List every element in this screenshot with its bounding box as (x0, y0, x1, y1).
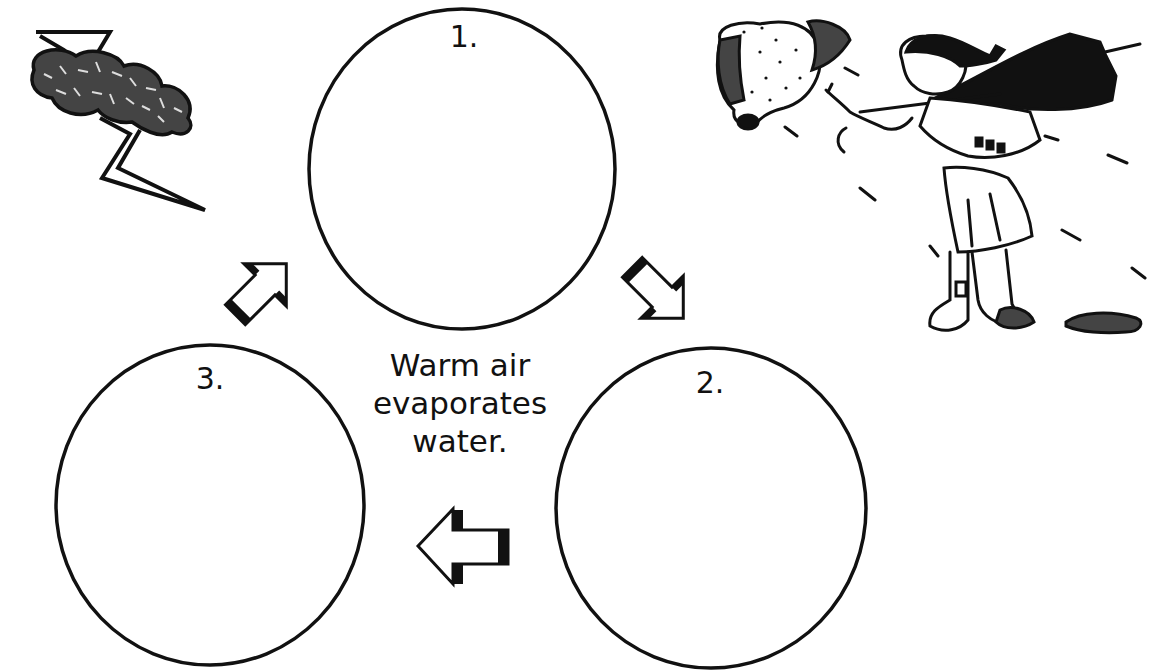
step-1-label: 1. (444, 22, 484, 52)
storm-cloud-lightning-icon (32, 32, 205, 210)
arrow-up-right-icon (214, 243, 307, 336)
caption-line-3: water. (360, 422, 560, 460)
center-caption: Warm air evaporates water. (360, 346, 560, 460)
caption-line-1: Warm air (360, 346, 560, 384)
step-1-circle (309, 9, 615, 329)
girl-umbrella-wind-icon (717, 21, 1145, 333)
step-3-label: 3. (190, 364, 230, 394)
caption-line-2: evaporates (360, 384, 560, 422)
arrow-left-icon (418, 509, 508, 584)
water-cycle-diagram: 1. 2. 3. Warm air evaporates water. (0, 0, 1159, 670)
step-2-label: 2. (690, 368, 730, 398)
arrow-down-right-icon (611, 246, 704, 339)
